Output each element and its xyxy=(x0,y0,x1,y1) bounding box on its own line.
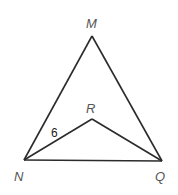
vertex-label-M: M xyxy=(86,16,97,31)
segment-NQ xyxy=(24,160,162,161)
segment-NR xyxy=(24,119,92,160)
segment-MQ xyxy=(92,36,162,161)
length-label-NR: 6 xyxy=(51,126,58,140)
geometry-diagram: M R N Q 6 xyxy=(0,0,178,195)
segment-MN xyxy=(24,36,92,160)
vertex-label-Q: Q xyxy=(155,169,165,184)
vertex-label-N: N xyxy=(14,169,24,184)
segment-RQ xyxy=(92,119,162,161)
vertex-label-R: R xyxy=(86,101,95,116)
